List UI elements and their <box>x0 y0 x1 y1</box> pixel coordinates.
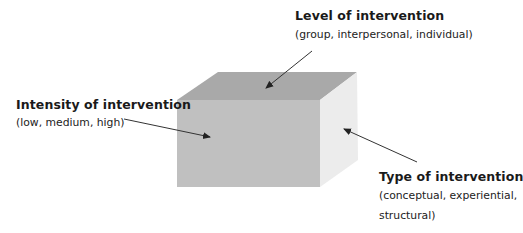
label-subtitle: (low, medium, high) <box>16 114 191 131</box>
label-title: Type of intervention <box>379 168 523 186</box>
label-subtitle: (conceptual, experiential, structural) <box>379 186 523 226</box>
label-intensity-of-intervention: Intensity of intervention (low, medium, … <box>16 96 191 131</box>
cube-front-face <box>177 100 320 187</box>
label-level-of-intervention: Level of intervention (group, interperso… <box>295 7 473 45</box>
label-title: Intensity of intervention <box>16 96 191 114</box>
label-title: Level of intervention <box>295 7 473 25</box>
label-type-of-intervention: Type of intervention (conceptual, experi… <box>379 168 523 226</box>
label-subtitle: (group, interpersonal, individual) <box>295 25 473 45</box>
